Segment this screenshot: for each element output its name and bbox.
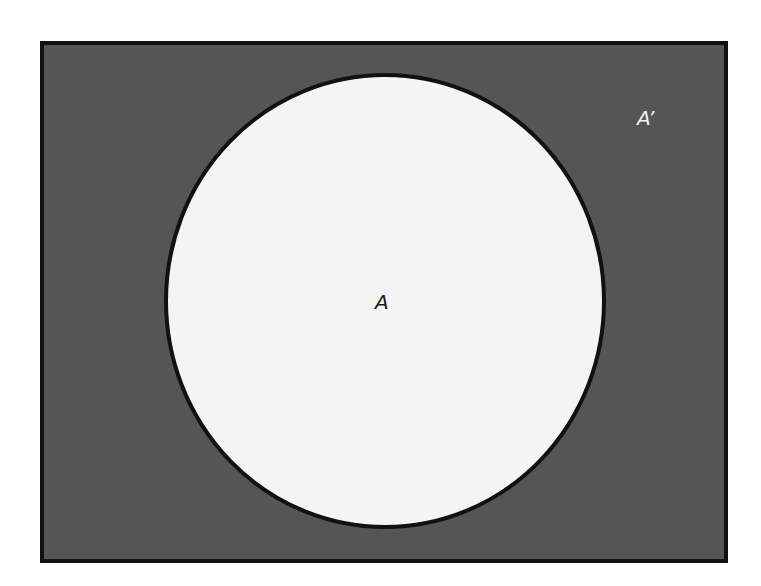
complement-label: A’ [637, 108, 654, 128]
set-a-label: A [375, 292, 389, 312]
